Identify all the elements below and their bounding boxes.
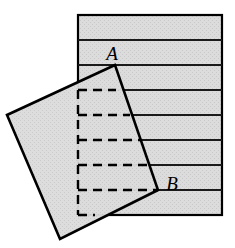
vertex-label-b: B	[166, 173, 178, 194]
geometry-figure-canvas: A B	[0, 0, 235, 248]
vertex-label-a: A	[104, 43, 118, 64]
figure-svg: A B	[0, 0, 235, 248]
